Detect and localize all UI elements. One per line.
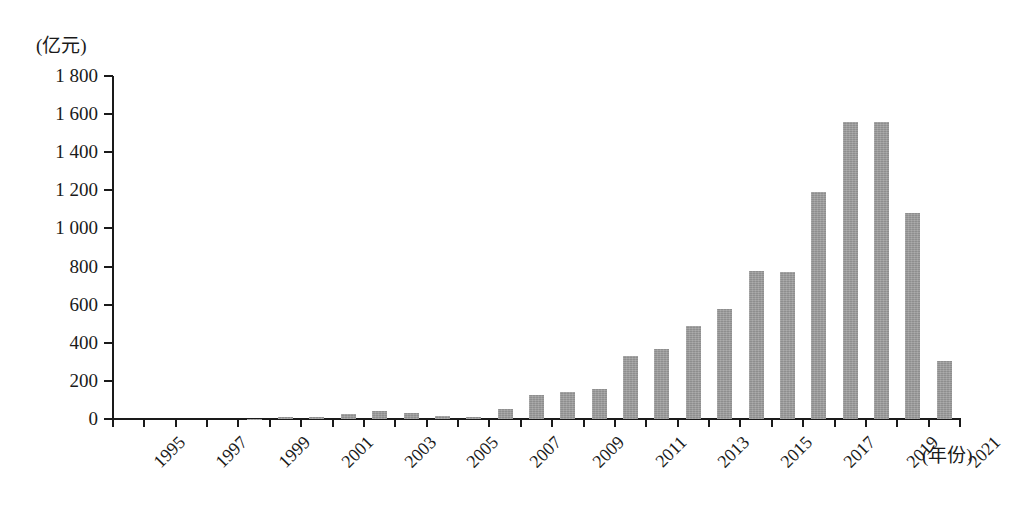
bar [780,272,795,419]
y-axis-tick [104,113,113,115]
x-axis-tick [708,418,710,427]
y-axis-tick [104,342,113,344]
x-axis-tick [739,418,741,427]
bar [592,389,607,419]
bar [435,416,450,419]
x-axis-tick [269,418,271,427]
bar [811,192,826,419]
y-axis-tick-label-text: 1 200 [32,180,98,199]
x-axis-tick [896,418,898,427]
bar [686,326,701,419]
y-axis-tick-label-text: 0 [32,409,98,428]
x-axis-tick-label: 1997 [212,432,252,472]
bar [498,409,513,419]
bar-chart: (亿元) 02004006008001 0001 2001 4001 6001 … [0,0,1018,506]
y-axis-tick-label: 1 400 [22,142,98,162]
bar [372,411,387,419]
x-axis-tick [175,418,177,427]
y-axis-tick-label-text: 1 400 [32,142,98,161]
bar [247,419,262,420]
x-axis-tick-label: 1999 [275,432,315,472]
y-axis-tick-label-text: 600 [32,295,98,314]
y-axis-tick-label: 400 [22,333,98,353]
x-axis-tick-label: 2005 [463,432,503,472]
x-axis-tick [426,418,428,427]
y-axis-tick-label-text: 200 [32,371,98,390]
x-axis-tick [583,418,585,427]
x-axis-tick [300,418,302,427]
y-axis-tick-label-text: 800 [32,257,98,276]
x-axis-tick [928,418,930,427]
x-axis-tick [394,418,396,427]
bar [404,413,419,419]
x-axis-tick-label: 2007 [526,432,566,472]
x-axis-tick [143,418,145,427]
y-axis-tick-label: 0 [22,409,98,429]
x-axis-tick-label: 2015 [777,432,817,472]
x-axis-tick-label: 2013 [714,432,754,472]
y-axis-line [112,76,114,420]
x-axis-tick [332,418,334,427]
x-axis-tick [488,418,490,427]
y-axis-tick [104,227,113,229]
y-axis-tick-label: 1 200 [22,180,98,200]
x-axis-tick [677,418,679,427]
bar [654,349,669,419]
bar [749,271,764,419]
y-axis-tick-label: 1 000 [22,218,98,238]
y-axis-tick-label-text: 400 [32,333,98,352]
bar [466,417,481,419]
y-axis-tick [104,75,113,77]
bar [717,309,732,419]
x-axis-tick-label: 1995 [149,432,189,472]
y-axis-tick [104,189,113,191]
bar [341,414,356,419]
y-axis-tick [104,304,113,306]
x-axis-tick [363,418,365,427]
bar [843,122,858,419]
y-axis-tick [104,380,113,382]
y-axis-tick-label: 200 [22,371,98,391]
bar [937,361,952,419]
y-axis-tick-label: 600 [22,295,98,315]
x-axis-tick [457,418,459,427]
bar [874,122,889,419]
bar [560,392,575,419]
x-axis-tick-label: 2001 [337,432,377,472]
x-axis-caption: (年份) [922,440,973,467]
y-axis-tick-label: 800 [22,257,98,277]
y-axis-tick [104,266,113,268]
x-axis-tick [802,418,804,427]
x-axis-tick [112,418,114,427]
x-axis-tick [520,418,522,427]
x-axis-tick [614,418,616,427]
x-axis-tick [237,418,239,427]
x-axis-tick [959,418,961,427]
y-axis-tick-label-text: 1 000 [32,218,98,237]
x-axis-tick [834,418,836,427]
bar [905,213,920,419]
x-axis-tick [645,418,647,427]
bar [309,417,324,419]
x-axis-tick-label: 2003 [400,432,440,472]
x-axis-tick [206,418,208,427]
y-axis-tick [104,151,113,153]
y-axis-tick-label: 1 600 [22,104,98,124]
y-axis-tick-label-text: 1 600 [32,104,98,123]
x-axis-tick-label: 2017 [839,432,879,472]
x-axis-tick-label: 2009 [588,432,628,472]
x-axis-tick [551,418,553,427]
x-axis-tick [865,418,867,427]
x-axis-tick [771,418,773,427]
bar [529,395,544,419]
bar [623,356,638,419]
y-axis-unit-label: (亿元) [36,30,87,57]
y-axis-tick-label-text: 1 800 [32,66,98,85]
bar [278,417,293,419]
x-axis-tick-label: 2011 [651,432,691,472]
y-axis-tick-label: 1 800 [22,66,98,86]
